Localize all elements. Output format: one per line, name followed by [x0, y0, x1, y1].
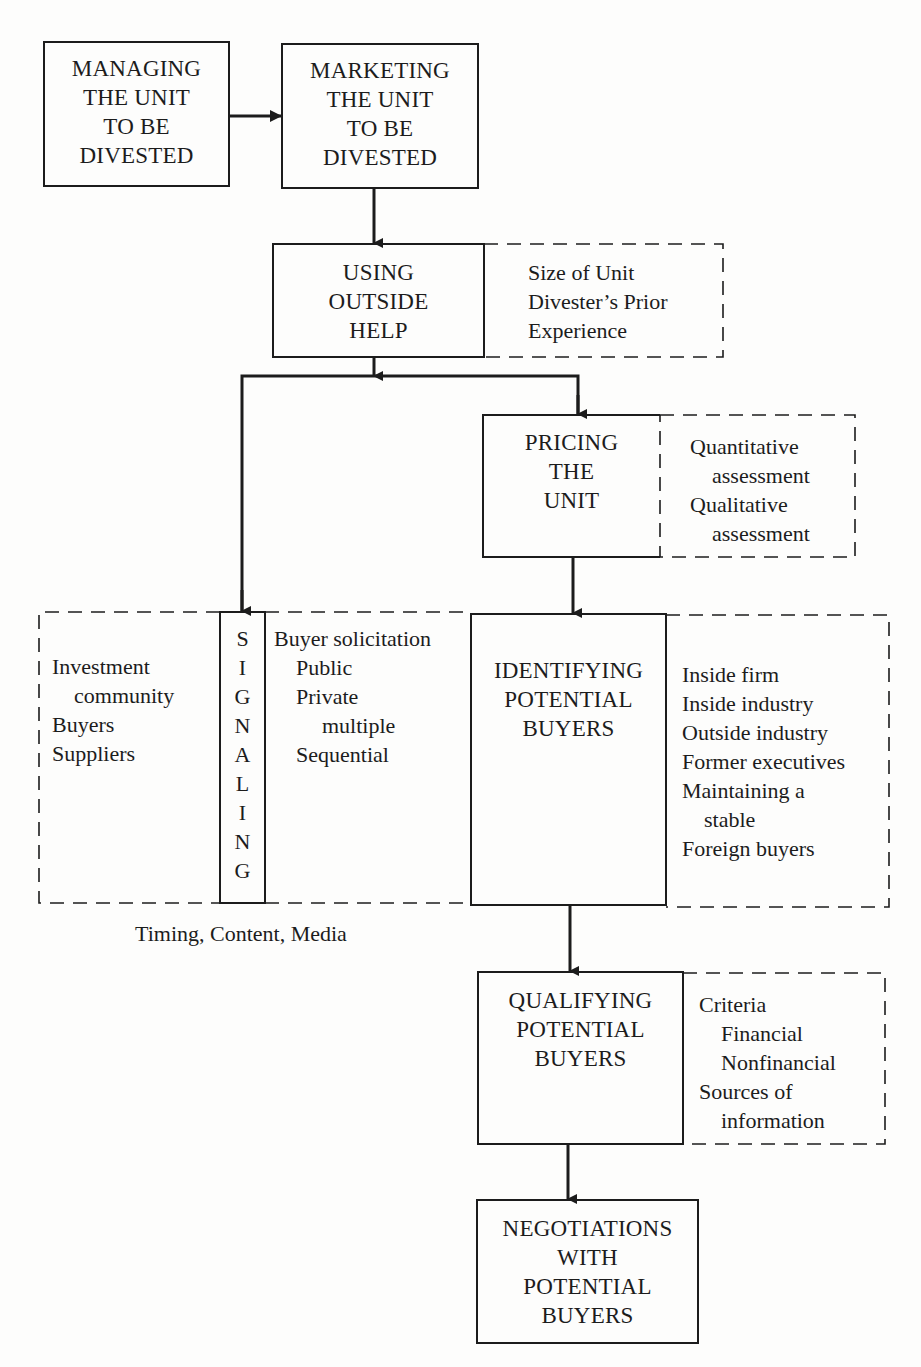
node-label-line: NEGOTIATIONS [503, 1214, 673, 1243]
node-marketing: MARKETING THE UNIT TO BE DIVESTED [282, 56, 478, 172]
node-managing: MANAGING THE UNIT TO BE DIVESTED [44, 54, 229, 170]
signaling-letter: S [236, 624, 248, 653]
identifying-factors: Inside firm Inside industry Outside indu… [682, 660, 845, 863]
node-signaling: S I G N A L I N G [220, 624, 265, 885]
method-item: Sequential [274, 740, 431, 769]
signaling-letter: G [235, 682, 251, 711]
node-negotiations: NEGOTIATIONS WITH POTENTIAL BUYERS [477, 1214, 698, 1330]
node-label-line: TO BE [347, 114, 413, 143]
node-label-line: THE UNIT [327, 85, 434, 114]
signaling-letter: I [239, 653, 246, 682]
node-label-line: WITH [557, 1243, 618, 1272]
signaling-methods: Buyer solicitation Public Private multip… [274, 624, 431, 769]
node-label-line: IDENTIFYING [494, 656, 643, 685]
method-item: Buyer solicitation [274, 624, 431, 653]
node-label-line: DIVESTED [323, 143, 437, 172]
method-item: Private [274, 682, 431, 711]
factor-item: Maintaining a [682, 776, 845, 805]
node-label-line: MANAGING [72, 54, 201, 83]
signaling-letter: G [235, 856, 251, 885]
pricing-factors: Quantitative assessment Qualitative asse… [690, 432, 810, 548]
node-label-line: UNIT [544, 486, 600, 515]
signaling-letter: N [235, 827, 251, 856]
factor-item: information [699, 1106, 836, 1135]
node-label-line: QUALIFYING [509, 986, 653, 1015]
method-item: multiple [274, 711, 431, 740]
factor-item: Outside industry [682, 718, 845, 747]
qualifying-factors: Criteria Financial Nonfinancial Sources … [699, 990, 836, 1135]
factor-item: Size of Unit [528, 258, 668, 287]
factor-item: Criteria [699, 990, 836, 1019]
node-label-line: USING [343, 258, 414, 287]
factor-item: Sources of [699, 1077, 836, 1106]
node-label-line: BUYERS [523, 714, 615, 743]
factor-item: Quantitative [690, 432, 810, 461]
factor-item: assessment [690, 519, 810, 548]
node-label-line: POTENTIAL [523, 1272, 651, 1301]
node-label-line: TO BE [103, 112, 169, 141]
factor-item: Inside industry [682, 689, 845, 718]
signaling-letter: N [235, 711, 251, 740]
node-label-line: BUYERS [542, 1301, 634, 1330]
divestiture-process-diagram: MANAGING THE UNIT TO BE DIVESTED MARKETI… [0, 0, 921, 1367]
signaling-audiences: Investment community Buyers Suppliers [52, 652, 174, 768]
factor-item: Former executives [682, 747, 845, 776]
factor-item: Foreign buyers [682, 834, 845, 863]
factor-item: Divester’s Prior [528, 287, 668, 316]
node-identifying: IDENTIFYING POTENTIAL BUYERS [471, 656, 666, 743]
signaling-letter: A [235, 740, 251, 769]
factor-item: Experience [528, 316, 668, 345]
node-label-line: DIVESTED [79, 141, 193, 170]
signaling-letter: L [236, 769, 249, 798]
node-label-line: MARKETING [310, 56, 450, 85]
node-qualifying: QUALIFYING POTENTIAL BUYERS [478, 986, 683, 1073]
audience-item: Buyers [52, 710, 174, 739]
method-item: Public [274, 653, 431, 682]
factor-item: assessment [690, 461, 810, 490]
signaling-letter: I [239, 798, 246, 827]
node-label-line: HELP [349, 316, 407, 345]
node-label-line: POTENTIAL [516, 1015, 644, 1044]
factor-item: Financial [699, 1019, 836, 1048]
node-label-line: THE [549, 457, 594, 486]
node-outside-help: USING OUTSIDE HELP [273, 258, 484, 345]
factor-item: Inside firm [682, 660, 845, 689]
node-label-line: PRICING [525, 428, 618, 457]
node-label-line: THE UNIT [83, 83, 190, 112]
outside-help-factors: Size of Unit Divester’s Prior Experience [528, 258, 668, 345]
node-pricing: PRICING THE UNIT [483, 428, 660, 515]
audience-item: Suppliers [52, 739, 174, 768]
node-label-line: BUYERS [535, 1044, 627, 1073]
node-label-line: POTENTIAL [504, 685, 632, 714]
factor-item: Qualitative [690, 490, 810, 519]
audience-item: community [52, 681, 174, 710]
factor-item: stable [682, 805, 845, 834]
signaling-caption: Timing, Content, Media [135, 920, 347, 948]
factor-item: Nonfinancial [699, 1048, 836, 1077]
node-label-line: OUTSIDE [329, 287, 429, 316]
audience-item: Investment [52, 652, 174, 681]
